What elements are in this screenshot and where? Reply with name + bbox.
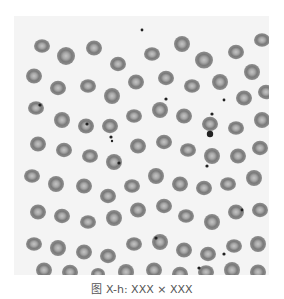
red-blood-cell — [124, 179, 140, 193]
red-blood-cell — [148, 168, 164, 184]
platelet — [222, 252, 225, 255]
red-blood-cell — [34, 39, 50, 53]
figure-caption: 图 X-h: XXX × XXX — [0, 283, 284, 299]
red-blood-cell — [24, 169, 40, 183]
red-blood-cell — [202, 117, 218, 131]
red-blood-cell — [246, 170, 262, 186]
red-blood-cell — [26, 237, 42, 251]
red-blood-cell — [78, 118, 94, 133]
red-blood-cell — [50, 240, 66, 256]
platelet — [38, 103, 41, 106]
red-blood-cell — [204, 148, 220, 164]
red-blood-cell — [102, 119, 118, 133]
red-blood-cell — [48, 176, 64, 192]
red-blood-cell — [200, 247, 216, 261]
red-blood-cell — [30, 136, 46, 151]
red-blood-cell — [30, 204, 46, 219]
red-blood-cell — [28, 101, 44, 115]
red-blood-cell — [144, 47, 160, 61]
red-blood-cell — [244, 64, 260, 80]
blood-smear-image — [14, 16, 269, 275]
red-blood-cell — [156, 135, 172, 149]
red-blood-cell — [156, 199, 172, 213]
red-blood-cell — [228, 45, 244, 59]
platelet — [205, 164, 208, 167]
red-blood-cell — [178, 209, 194, 223]
platelet — [207, 131, 213, 137]
platelet — [109, 135, 112, 138]
red-blood-cell — [226, 239, 242, 253]
red-blood-cell — [50, 81, 66, 95]
red-blood-cell — [56, 143, 72, 157]
red-blood-cell — [80, 79, 96, 93]
red-blood-cell — [228, 121, 244, 135]
red-blood-cell — [252, 141, 268, 155]
platelet — [85, 122, 88, 125]
red-blood-cell — [100, 189, 116, 203]
red-blood-cell — [54, 209, 70, 223]
platelet — [154, 236, 157, 239]
red-blood-cell — [252, 203, 268, 217]
red-blood-cell — [106, 210, 122, 226]
red-blood-cell — [174, 36, 190, 52]
red-blood-cell — [184, 79, 200, 93]
red-blood-cell — [100, 249, 116, 263]
platelet — [197, 266, 200, 269]
red-blood-cell — [236, 90, 252, 105]
red-blood-cell — [128, 74, 144, 89]
red-blood-cell — [220, 177, 236, 191]
red-blood-cell — [110, 57, 126, 71]
red-blood-cell — [80, 215, 96, 229]
red-blood-cell — [54, 112, 70, 128]
red-blood-cell — [76, 178, 92, 193]
red-blood-cell — [176, 242, 192, 257]
red-blood-cell — [82, 149, 98, 163]
red-blood-cell — [152, 102, 168, 118]
red-blood-cell — [250, 236, 266, 252]
red-blood-cell — [57, 47, 75, 65]
red-blood-cell — [126, 109, 142, 123]
red-blood-cell — [104, 88, 120, 104]
red-blood-cell — [130, 202, 146, 217]
red-blood-cell — [86, 40, 102, 55]
platelet — [210, 112, 213, 115]
red-blood-cell — [212, 74, 228, 90]
red-blood-cell — [196, 181, 212, 195]
red-blood-cell — [172, 176, 188, 191]
red-blood-cell — [76, 244, 92, 259]
red-blood-cell — [158, 71, 174, 85]
red-blood-cell — [195, 51, 213, 68]
red-blood-cell — [204, 214, 220, 230]
platelet — [141, 29, 144, 32]
platelet — [223, 99, 226, 102]
red-blood-cell — [180, 143, 196, 157]
red-blood-cell — [126, 237, 142, 251]
platelet — [111, 140, 113, 142]
red-blood-cell — [230, 148, 246, 163]
red-blood-cell — [26, 68, 42, 83]
micrograph — [14, 16, 269, 275]
red-blood-cell — [130, 138, 146, 153]
platelet — [164, 97, 167, 100]
red-blood-cell — [228, 204, 244, 219]
platelet — [241, 209, 244, 212]
red-blood-cell — [176, 108, 192, 123]
red-blood-cell — [152, 234, 168, 250]
platelet — [117, 161, 120, 164]
